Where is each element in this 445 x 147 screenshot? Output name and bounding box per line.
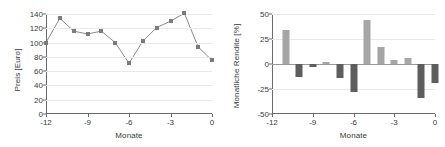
price-chart-x-axis-label: Monate [79,131,179,140]
price-data-point [127,61,131,65]
price-data-point [58,16,62,20]
return-bar [377,47,384,64]
price-data-point [196,45,200,49]
y-tick-mark [43,85,46,86]
x-tick-mark [354,114,355,117]
return-bar [364,20,371,64]
price-data-point [113,41,117,45]
price-data-point [141,39,145,43]
return-chart-y-axis-label: Monatliche Rendite [%] [232,10,246,122]
chart-figure: Preis [Euro] 020406080100120140-12-9-6-3… [0,0,445,147]
y-tick-label: 60 [34,67,43,76]
price-series-line [46,13,212,63]
gridline [272,14,435,15]
x-tick-label: 0 [433,118,437,127]
y-tick-label: -25 [257,85,269,94]
x-tick-mark [272,114,273,117]
return-bar [418,64,425,98]
y-tick-label: 25 [260,35,269,44]
y-tick-label: 80 [34,52,43,61]
x-tick-label: 0 [210,118,214,127]
price-data-point [44,41,48,45]
y-tick-mark [43,71,46,72]
return-bar [350,64,357,92]
x-tick-mark [394,114,395,117]
y-tick-mark [269,14,272,15]
return-bar [296,64,303,77]
gridline [272,39,435,40]
price-data-point [72,29,76,33]
price-chart-y-axis-label: Preis [Euro] [13,20,27,120]
y-tick-mark [43,99,46,100]
x-tick-label: -6 [125,118,132,127]
x-tick-mark [171,114,172,117]
x-tick-label: -3 [391,118,398,127]
x-tick-label: -12 [266,118,278,127]
price-data-point [210,58,214,62]
y-tick-label: 40 [34,81,43,90]
gridline [46,57,212,58]
return-chart-plot-area: -50-2502550-12-9-6-30 [272,14,435,114]
gridline [46,100,212,101]
return-chart-x-axis-label: Monate [304,131,404,140]
x-tick-mark [435,114,436,117]
price-line-chart-panel: Preis [Euro] 020406080100120140-12-9-6-3… [0,0,222,147]
y-tick-mark [269,64,272,65]
return-bar [391,60,398,64]
y-tick-mark [43,28,46,29]
x-tick-label: -3 [167,118,174,127]
x-tick-label: -12 [40,118,52,127]
return-bar [432,64,439,83]
return-bar [336,64,343,78]
y-tick-label: 20 [34,95,43,104]
gridline [46,71,212,72]
y-tick-mark [43,14,46,15]
x-tick-label: -9 [309,118,316,127]
return-bar [323,62,330,64]
price-data-point [182,11,186,15]
return-bar [404,58,411,64]
x-tick-mark [212,114,213,117]
price-chart-plot-area: 020406080100120140-12-9-6-30 [46,14,212,114]
price-data-point [99,29,103,33]
x-tick-label: -6 [350,118,357,127]
y-tick-mark [269,39,272,40]
y-tick-label: 50 [260,10,269,19]
gridline [46,43,212,44]
x-tick-label: -9 [84,118,91,127]
return-bar-chart-panel: Monatliche Rendite [%] -50-2502550-12-9-… [222,0,445,147]
x-tick-mark [88,114,89,117]
y-tick-label: 0 [265,60,269,69]
x-tick-mark [129,114,130,117]
y-tick-label: 140 [30,10,43,19]
price-data-point [155,26,159,30]
y-tick-mark [269,89,272,90]
price-data-point [169,19,173,23]
y-tick-label: 120 [30,24,43,33]
return-bar [282,30,289,64]
y-tick-mark [43,56,46,57]
x-tick-mark [313,114,314,117]
y-tick-label: 100 [30,38,43,47]
gridline [46,85,212,86]
gridline [46,14,212,15]
x-tick-mark [46,114,47,117]
return-bar [309,64,316,67]
price-data-point [86,32,90,36]
